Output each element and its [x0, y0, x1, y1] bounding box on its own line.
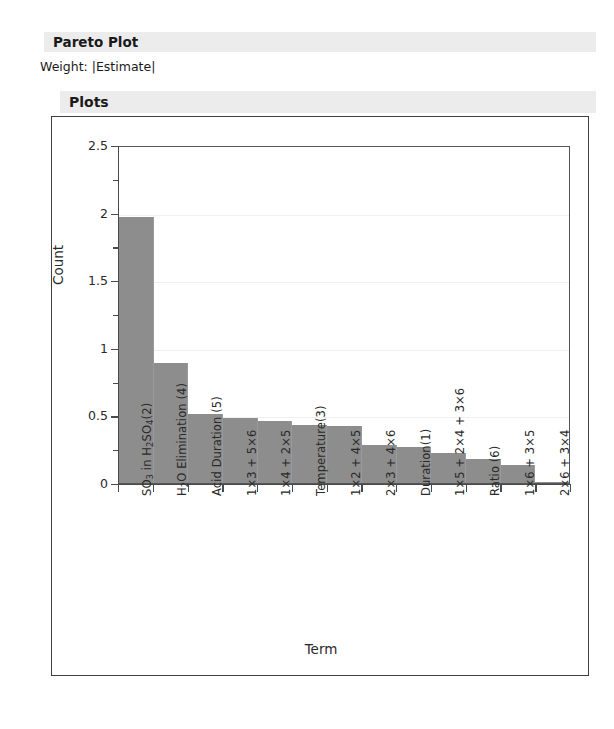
- y-axis-tick-label: 0: [52, 476, 108, 491]
- y-axis-tick-label: 2: [52, 206, 108, 221]
- y-axis-tick: [111, 214, 119, 215]
- x-axis-title: Term: [52, 641, 590, 657]
- pareto-plot-report: Pareto Plot Weight: |Estimate| Plots 00.…: [0, 0, 614, 729]
- y-axis-tick-label: 0.5: [52, 408, 108, 423]
- x-axis-category-label: 1×2 + 4×5: [349, 430, 363, 496]
- x-axis-category-label: 2×3 + 4×6: [384, 430, 398, 496]
- y-axis-minor-tick: [113, 315, 119, 316]
- y-axis-tick: [111, 349, 119, 350]
- y-axis-tick: [111, 416, 119, 417]
- y-axis-tick: [111, 281, 119, 282]
- pareto-plot-section-header[interactable]: Pareto Plot: [44, 32, 596, 52]
- x-axis-category-label: Acid Duration (5): [210, 396, 224, 496]
- y-axis-tick-label: 1: [52, 341, 108, 356]
- y-axis-minor-tick: [113, 180, 119, 181]
- x-axis-category-label: Ratio (6): [488, 446, 502, 496]
- x-axis-category-label: 2×6 + 3×4: [558, 430, 572, 496]
- plots-section-header[interactable]: Plots: [60, 91, 596, 113]
- x-axis-category-label: 1×3 + 5×6: [245, 430, 259, 496]
- y-axis-tick-label: 2.5: [52, 138, 108, 153]
- x-axis-category-label: H2O Elimination (4): [175, 383, 189, 496]
- chart-frame: 00.511.522.5 Count SO3 in H2SO4(2)H2O El…: [51, 116, 589, 676]
- y-axis-minor-tick: [113, 247, 119, 248]
- x-axis-category-label: Duration(1): [419, 429, 433, 496]
- y-axis-tick: [111, 146, 119, 147]
- x-axis-tick: [118, 485, 119, 492]
- weight-label: Weight: |Estimate|: [40, 59, 155, 74]
- x-axis-category-label: Temperature(3): [314, 405, 328, 496]
- y-axis-minor-tick: [113, 383, 119, 384]
- x-axis-category-label: 1×5 + 2×4 + 3×6: [453, 388, 467, 496]
- x-axis-category-label: SO3 in H2SO4(2): [140, 403, 154, 496]
- x-axis-category-label: 1×6 + 3×5: [523, 430, 537, 496]
- x-axis-category-label: 1×4 + 2×5: [279, 430, 293, 496]
- y-axis-title: Count: [50, 245, 66, 285]
- y-axis-minor-tick: [113, 450, 119, 451]
